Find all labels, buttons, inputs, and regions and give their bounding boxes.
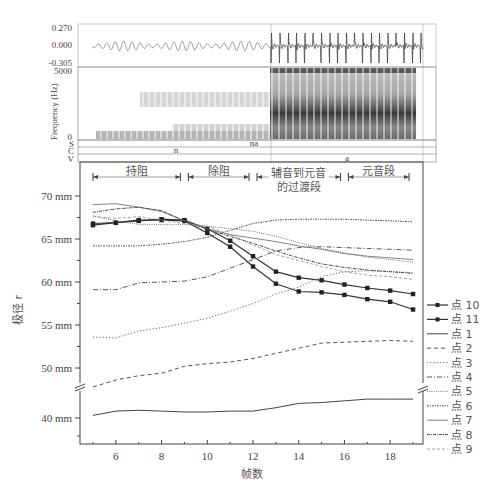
data-point (319, 290, 323, 294)
x-axis-label: 帧数 (241, 467, 263, 481)
y-tick-label: 55 mm (41, 319, 72, 331)
legend-label: 点 7 (451, 414, 473, 427)
legend-item: 点 2 (427, 342, 473, 355)
y-tick-label: 50 mm (41, 362, 72, 374)
plot-frame (80, 162, 423, 444)
spectrogram-ylabel: Frequency (Hz) (49, 83, 59, 140)
legend-item: 点 11 (427, 313, 480, 326)
legend-label: 点 2 (451, 342, 473, 355)
legend-label: 点 9 (451, 443, 473, 456)
legend-label: 点 1 (451, 328, 473, 341)
series-点8 (93, 207, 413, 273)
data-point (274, 269, 278, 273)
legend-label: 点 5 (451, 385, 473, 398)
data-point (342, 282, 346, 286)
data-point (365, 286, 369, 290)
series-点6 (93, 219, 413, 246)
data-point (411, 292, 415, 296)
y-axis-label: 极径 r (11, 295, 25, 325)
data-point (297, 276, 301, 280)
legend-label: 点 4 (451, 371, 473, 384)
legend-item: 点 8 (427, 429, 473, 442)
x-tick-label: 10 (202, 450, 214, 462)
phase-3: 辅音到元音的过渡段 (257, 166, 340, 194)
data-point (365, 297, 369, 301)
phase-label: 辅音到元音 (271, 166, 326, 180)
data-point (91, 223, 95, 227)
phase-2: 除阻 (188, 164, 249, 181)
data-point (205, 231, 209, 235)
data-point (228, 245, 232, 249)
spectrogram-panel: 5000 0 Frequency (Hz) (49, 66, 436, 142)
data-point (342, 293, 346, 297)
series-点3 (93, 271, 413, 338)
legend-item: 点 5 (427, 385, 473, 398)
phase-label: 元音段 (362, 164, 395, 178)
legend-item: 点 10 (427, 299, 480, 312)
data-point (388, 288, 392, 292)
legend-label: 点 10 (451, 299, 480, 312)
legend-item: 点 7 (427, 414, 473, 427)
y-tick-label: 70 mm (41, 190, 72, 202)
series-点2 (93, 341, 413, 387)
series-点11 (91, 218, 415, 312)
data-point (388, 300, 392, 304)
x-tick-label: 18 (385, 450, 397, 462)
phase-label: 除阻 (208, 164, 230, 178)
data-point (251, 264, 255, 268)
data-point (228, 239, 232, 243)
legend-label: 点 8 (451, 429, 473, 442)
data-point (274, 282, 278, 286)
y-tick-label: 60 mm (41, 276, 72, 288)
data-point (137, 218, 141, 222)
legend-item: 点 4 (427, 371, 473, 384)
phase-annotations: 持阻除阻辅音到元音的过渡段元音段 (93, 164, 409, 194)
x-tick-label: 16 (339, 450, 351, 462)
line-chart: 持阻除阻辅音到元音的过渡段元音段 70 mm65 mm60 mm55 mm50 … (11, 162, 429, 481)
waveform-vowel (271, 33, 423, 63)
legend-item: 点 9 (427, 443, 473, 456)
spectrogram-ytick: 5000 (54, 66, 73, 76)
x-axis: 681012141618 (93, 440, 413, 462)
tier-label-v: V (68, 154, 75, 164)
phase-1: 持阻 (93, 164, 180, 181)
data-point (251, 254, 255, 258)
data-point (297, 289, 301, 293)
waveform-ytick: 0.270 (52, 23, 73, 33)
legend-label: 点 11 (451, 313, 480, 326)
data-point (411, 307, 415, 311)
legend-label: 点 3 (451, 357, 473, 370)
legend-item: 点 1 (427, 328, 473, 341)
phase-label: 的过渡段 (277, 180, 321, 194)
legend-item: 点 6 (427, 400, 473, 413)
tier-segment-n: n (174, 145, 179, 155)
phase-label: 持阻 (126, 164, 148, 178)
series-lines (91, 204, 415, 416)
waveform-consonant (93, 41, 270, 51)
y-tick-label: 65 mm (41, 233, 72, 245)
x-tick-label: 12 (248, 450, 259, 462)
data-point (319, 278, 323, 282)
x-tick-label: 6 (113, 450, 119, 462)
y-tick-label: 40 mm (41, 412, 72, 424)
series-点9 (93, 217, 413, 280)
x-tick-label: 8 (159, 450, 165, 462)
tier-segment-na: na (250, 138, 259, 148)
figure: 0.270 0.000 -0.305 (0, 0, 494, 501)
phase-4: 元音段 (348, 164, 409, 181)
series-点1 (93, 399, 413, 415)
waveform-ytick: 0.000 (52, 40, 73, 50)
annotation-tiers: S C V na n a (68, 138, 437, 164)
legend-item: 点 3 (427, 357, 473, 370)
legend-label: 点 6 (451, 400, 473, 413)
x-tick-label: 14 (293, 450, 305, 462)
legend: 点 10点 11点 1点 2点 3点 4点 5点 6点 7点 8点 9 (427, 299, 480, 456)
